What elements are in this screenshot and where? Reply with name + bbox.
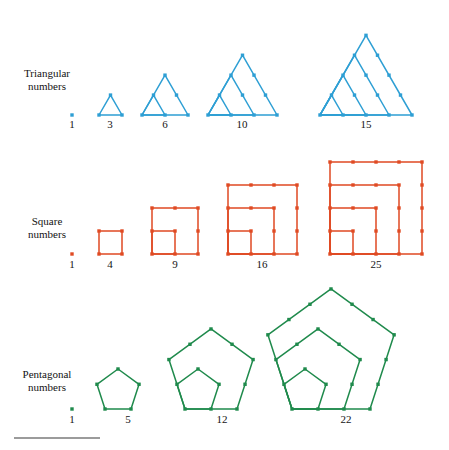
- figure-outline: [268, 289, 394, 409]
- dot: [420, 252, 423, 255]
- dot: [350, 383, 353, 386]
- dot: [316, 327, 319, 330]
- figure-value-label: 4: [107, 258, 113, 270]
- dot: [70, 407, 73, 410]
- dot: [364, 73, 367, 76]
- dot: [218, 93, 221, 96]
- dot: [353, 54, 356, 57]
- dot: [264, 93, 267, 96]
- dot: [206, 113, 209, 116]
- figure-outline: [99, 95, 122, 115]
- dot: [376, 54, 379, 57]
- dot: [196, 252, 199, 255]
- figures-canvas: 13610151491625151222: [0, 0, 449, 450]
- dot: [150, 229, 153, 232]
- dot: [235, 407, 238, 410]
- dot: [226, 229, 229, 232]
- dot: [328, 160, 331, 163]
- dot: [70, 252, 73, 255]
- dot: [316, 407, 319, 410]
- dot: [249, 229, 252, 232]
- figure-value-label: 25: [371, 258, 383, 270]
- dot: [229, 113, 232, 116]
- dot: [120, 252, 123, 255]
- figure-outline: [330, 231, 353, 254]
- dot: [392, 333, 395, 336]
- figure-value-label: 1: [69, 118, 75, 130]
- dot: [303, 367, 306, 370]
- dot: [129, 407, 132, 410]
- figurate-numbers-figure: Triangular numbers Square numbers Pentag…: [0, 0, 449, 450]
- dot: [97, 252, 100, 255]
- dot: [376, 93, 379, 96]
- figure-outline: [228, 185, 297, 254]
- figure-outline: [320, 75, 366, 115]
- dot: [371, 318, 374, 321]
- dot: [209, 327, 212, 330]
- dot: [337, 343, 340, 346]
- dot: [152, 93, 155, 96]
- dot: [163, 113, 166, 116]
- dot: [186, 113, 189, 116]
- dot: [241, 54, 244, 57]
- dot: [175, 383, 178, 386]
- dot: [272, 252, 275, 255]
- figure-outline: [208, 75, 254, 115]
- dot: [308, 303, 311, 306]
- dot: [97, 229, 100, 232]
- dot: [295, 183, 298, 186]
- dot: [109, 93, 112, 96]
- dot: [150, 206, 153, 209]
- dot: [358, 358, 361, 361]
- dot: [173, 252, 176, 255]
- dot: [226, 183, 229, 186]
- dot: [374, 229, 377, 232]
- dot: [173, 229, 176, 232]
- dot: [387, 73, 390, 76]
- dot: [328, 252, 331, 255]
- dot: [420, 206, 423, 209]
- figure-value-label: 3: [107, 118, 113, 130]
- dot: [330, 93, 333, 96]
- dot: [342, 407, 345, 410]
- figure-outline: [320, 95, 343, 115]
- dot: [282, 383, 285, 386]
- dot: [188, 343, 191, 346]
- dot: [226, 252, 229, 255]
- dot: [163, 73, 166, 76]
- dot: [397, 229, 400, 232]
- figure-outline: [208, 55, 277, 115]
- dot: [397, 206, 400, 209]
- dot: [137, 383, 140, 386]
- dot: [274, 358, 277, 361]
- dot: [120, 229, 123, 232]
- figure-outline: [99, 231, 122, 254]
- dot: [95, 383, 98, 386]
- dot: [324, 383, 327, 386]
- dot: [397, 252, 400, 255]
- dot: [364, 113, 367, 116]
- dot: [272, 183, 275, 186]
- dot: [295, 229, 298, 232]
- figure-outline: [152, 231, 175, 254]
- figure-value-label: 9: [172, 258, 178, 270]
- dot: [249, 183, 252, 186]
- dot: [175, 93, 178, 96]
- dot: [329, 287, 332, 290]
- dot: [318, 113, 321, 116]
- dot: [173, 206, 176, 209]
- dot: [384, 358, 387, 361]
- dot: [196, 229, 199, 232]
- dot: [183, 407, 186, 410]
- dot: [374, 160, 377, 163]
- dot: [410, 113, 413, 116]
- dot: [341, 73, 344, 76]
- dot: [196, 367, 199, 370]
- dot: [252, 73, 255, 76]
- dot: [295, 252, 298, 255]
- dot: [295, 206, 298, 209]
- dot: [243, 383, 246, 386]
- dot: [420, 183, 423, 186]
- dot: [376, 383, 379, 386]
- dot: [252, 113, 255, 116]
